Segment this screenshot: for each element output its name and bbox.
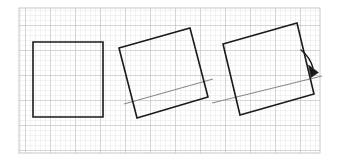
geometry-diagram (0, 0, 339, 161)
figure-canvas: Rotation of a square about a point on an… (0, 0, 339, 161)
